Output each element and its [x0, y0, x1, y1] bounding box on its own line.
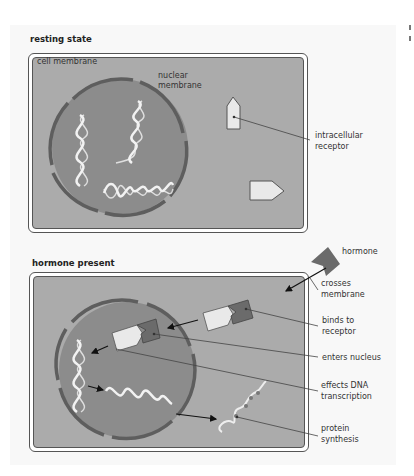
- intracellular-receptor-resting: [227, 97, 284, 200]
- hormone-receptor-complex-cytoplasm: [203, 300, 253, 331]
- protein-chain: [219, 381, 266, 432]
- diagram-graphics: [0, 0, 414, 476]
- leader-intracellular-receptor: [234, 117, 310, 140]
- hormone-outside: [311, 247, 340, 276]
